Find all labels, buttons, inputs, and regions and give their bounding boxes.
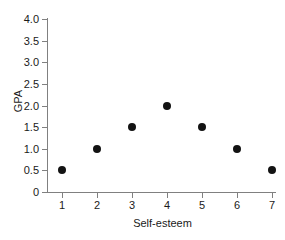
y-tick-mark	[42, 41, 47, 42]
x-tick-label: 6	[227, 200, 247, 211]
x-axis-line	[47, 192, 276, 193]
y-tick-label: 0	[9, 187, 39, 198]
y-tick-label: 3.0	[9, 57, 39, 68]
x-tick-label: 1	[52, 200, 72, 211]
data-point	[233, 145, 241, 153]
x-tick-label: 2	[87, 200, 107, 211]
data-point	[128, 123, 136, 131]
x-tick-label: 3	[122, 200, 142, 211]
y-tick-mark	[42, 84, 47, 85]
x-tick-mark	[167, 193, 168, 198]
y-tick-label: 0.5	[9, 165, 39, 176]
x-tick-mark	[62, 193, 63, 198]
data-point	[163, 102, 171, 110]
x-tick-label: 7	[262, 200, 282, 211]
y-tick-mark	[42, 19, 47, 20]
y-tick-mark	[42, 170, 47, 171]
x-tick-mark	[272, 193, 273, 198]
y-tick-mark	[42, 192, 47, 193]
x-axis-label: Self-esteem	[48, 217, 277, 229]
x-tick-label: 5	[192, 200, 212, 211]
y-tick-label: 1.0	[9, 144, 39, 155]
y-axis-line	[47, 18, 48, 193]
x-tick-mark	[202, 193, 203, 198]
x-tick-mark	[97, 193, 98, 198]
data-point	[198, 123, 206, 131]
y-axis-label: GPA	[12, 71, 24, 131]
data-point	[268, 166, 276, 174]
y-tick-mark	[42, 106, 47, 107]
y-tick-mark	[42, 127, 47, 128]
x-tick-mark	[237, 193, 238, 198]
y-tick-mark	[42, 149, 47, 150]
scatter-plot-figure: 00.51.01.52.02.53.03.54.0 1234567 Self-e…	[0, 0, 285, 240]
y-tick-label: 3.5	[9, 36, 39, 47]
y-tick-mark	[42, 62, 47, 63]
data-point	[93, 145, 101, 153]
x-tick-label: 4	[157, 200, 177, 211]
y-tick-label: 4.0	[9, 14, 39, 25]
data-point	[58, 166, 66, 174]
x-tick-mark	[132, 193, 133, 198]
